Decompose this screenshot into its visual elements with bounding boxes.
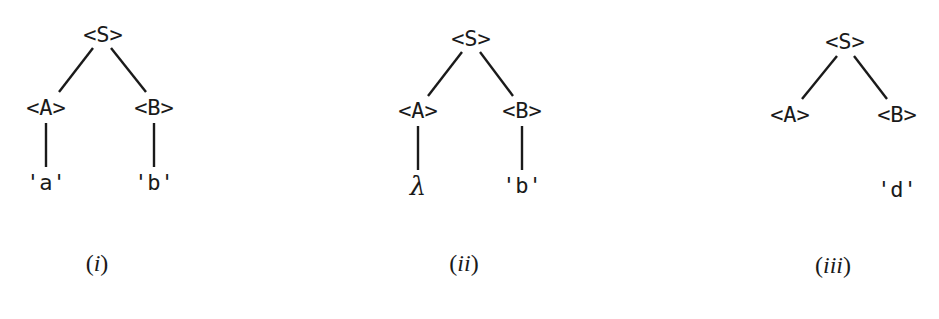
tree-iii-caption: (iii) bbox=[815, 252, 851, 279]
edge-ii-s-a bbox=[428, 52, 462, 96]
edge-ii-s-b bbox=[480, 52, 513, 96]
edge-iii-s-b bbox=[854, 56, 887, 99]
tree-i-leaf-b: 'b' bbox=[134, 172, 174, 194]
edge-iii-s-a bbox=[802, 56, 837, 99]
caption-label: iii bbox=[823, 252, 843, 278]
tree-ii-node-a: <A> bbox=[398, 100, 438, 122]
tree-ii-root-node: <S> bbox=[451, 28, 491, 50]
edge-i-s-a bbox=[59, 48, 93, 92]
tree-i-caption: (i) bbox=[86, 250, 109, 277]
tree-i-leaf-a: 'a' bbox=[26, 172, 66, 194]
tree-iii-node-b: <B> bbox=[877, 104, 917, 126]
tree-iii-node-a: <A> bbox=[770, 104, 810, 126]
caption-close-paren: ) bbox=[100, 250, 108, 276]
tree-ii-leaf-lambda: λ bbox=[410, 173, 426, 199]
tree-iii-leaf-d: 'd' bbox=[877, 179, 917, 201]
caption-open-paren: ( bbox=[86, 250, 94, 276]
caption-close-paren: ) bbox=[843, 252, 851, 278]
tree-iii-root-node: <S> bbox=[825, 31, 865, 53]
parse-trees-figure: <S> <A> <B> 'a' 'b' (i) <S> <A> <B> λ 'b… bbox=[0, 0, 939, 319]
tree-ii-node-b: <B> bbox=[502, 100, 542, 122]
tree-ii-leaf-b: 'b' bbox=[502, 175, 542, 197]
tree-ii-caption: (ii) bbox=[449, 250, 478, 277]
caption-close-paren: ) bbox=[471, 250, 479, 276]
caption-open-paren: ( bbox=[449, 250, 457, 276]
caption-open-paren: ( bbox=[815, 252, 823, 278]
tree-i-node-b: <B> bbox=[134, 97, 174, 119]
caption-label: ii bbox=[457, 250, 470, 276]
tree-i-node-a: <A> bbox=[26, 97, 66, 119]
caption-label: i bbox=[94, 250, 101, 276]
edge-i-s-b bbox=[111, 48, 146, 92]
tree-i-root-node: <S> bbox=[83, 24, 123, 46]
